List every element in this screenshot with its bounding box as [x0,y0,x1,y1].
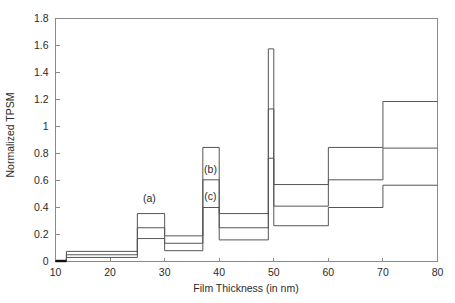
series-annotation-b: (b) [204,163,217,175]
series-annotation-a: (a) [143,192,156,204]
y-tick-label: 1.6 [34,39,49,51]
y-tick-label: 1.2 [34,93,49,105]
x-tick-label: 30 [159,266,171,278]
x-tick-label: 10 [50,266,62,278]
y-tick-label: 1.4 [34,66,49,78]
y-axis-title: Normalized TPSM [4,93,16,178]
x-tick-label: 40 [213,266,225,278]
chart-figure: 00.20.40.60.811.21.41.61.810203040506070… [0,0,455,303]
x-tick-label: 60 [323,266,335,278]
x-tick-label: 20 [104,266,116,278]
y-tick-label: 1 [43,120,49,132]
series-annotation-c: (c) [204,190,216,202]
y-tick-label: 0.4 [34,201,49,213]
y-tick-label: 0.2 [34,228,49,240]
y-tick-label: 0.6 [34,174,49,186]
y-tick-label: 1.8 [34,12,49,24]
y-tick-label: 0 [43,255,49,267]
x-tick-label: 80 [432,266,444,278]
x-axis-title: Film Thickness (in nm) [193,282,298,294]
y-tick-label: 0.8 [34,147,49,159]
x-tick-label: 50 [268,266,280,278]
x-tick-label: 70 [377,266,389,278]
chart-svg: 00.20.40.60.811.21.41.61.810203040506070… [0,0,455,303]
